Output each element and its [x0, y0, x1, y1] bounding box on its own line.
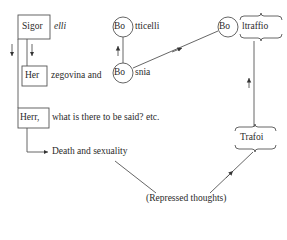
sigor-rest-text: elli [54, 22, 66, 32]
her-boxed-text: Her [25, 71, 39, 81]
bo2-rest-text: snia [135, 68, 150, 78]
bo2-circled-text: Bo [114, 68, 125, 78]
her-rest-text: zegovina and [51, 71, 101, 81]
bo3-rest-text: ltraffio [242, 22, 268, 32]
herr-boxed-text: Herr, [20, 113, 39, 123]
bo3-circled-text: Bo [219, 22, 230, 32]
repressed-thoughts-label: (Repressed thoughts) [146, 194, 226, 204]
herr-rest-text: what is there to be said? etc. [52, 113, 159, 123]
death-and-sexuality-label: Death and sexuality [52, 147, 127, 157]
bo1-rest-text: tticelli [135, 22, 159, 32]
trafoi-label: Trafoi [240, 133, 263, 143]
sigor-boxed-text: Sigor [22, 22, 43, 32]
bo1-circled-text: Bo [114, 22, 125, 32]
